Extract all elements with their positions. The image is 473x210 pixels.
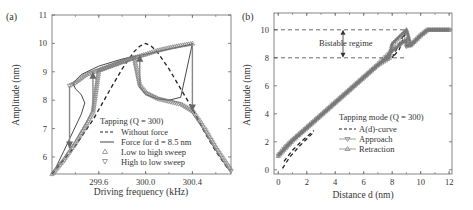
legend-entry-ad-curve: A(d)-curve — [359, 124, 397, 134]
panel-a-frequency-sweep: (a) 67891011 299.6300.0300.4 Driving fre… — [6, 10, 233, 198]
y-tick-label: 7 — [43, 124, 47, 134]
y-tick-label: 8 — [265, 53, 269, 63]
legend-entry-retraction: Retraction — [359, 144, 395, 154]
x-tick-label: 12 — [445, 177, 454, 187]
y-tick-label: 9 — [43, 67, 47, 77]
panel-label-b: (b) — [242, 11, 254, 23]
bistable-regime-annotation: Bistable regime — [319, 38, 373, 48]
legend-entry-low-to-high: Low to high sweep — [121, 147, 186, 157]
x-tick-label: 300.4 — [183, 177, 203, 187]
y-tick-label: 2 — [265, 137, 269, 147]
x-tick-label: 6 — [362, 177, 366, 187]
legend-entry-force: Force for d = 8.5 nm — [121, 137, 192, 147]
y-tick-label: 10 — [261, 25, 270, 35]
y-tick-label: 11 — [39, 10, 47, 20]
legend-entry-high-to-low: High to low sweep — [121, 157, 185, 167]
triangle-up-icon — [345, 147, 350, 151]
legend-b: Tapping mode (Q = 300) A(d)-curve Approa… — [339, 112, 424, 154]
x-axis-label-a: Driving frequency (kHz) — [94, 187, 188, 198]
x-axis-label-b: Distance d (nm) — [332, 190, 393, 201]
y-tick-label: 10 — [39, 38, 48, 48]
panel-label-a: (a) — [6, 11, 17, 23]
y-tick-label: 4 — [265, 109, 270, 119]
panel-b-distance-curve: (b) 0246810 024681012 Distance d (nm) Am… — [242, 11, 453, 201]
arrow-up-icon — [341, 30, 346, 35]
figure: (a) 67891011 299.6300.0300.4 Driving fre… — [0, 0, 473, 210]
triangle-down-icon — [345, 138, 350, 142]
y-tick-label: 6 — [43, 152, 47, 162]
x-tick-label: 2 — [305, 177, 309, 187]
x-tick-label: 300.0 — [136, 177, 155, 187]
x-tick-label: 299.6 — [89, 177, 108, 187]
x-tick-label: 0 — [276, 177, 280, 187]
legend-title-a: Tapping (Q = 300) — [100, 116, 164, 126]
legend-title-b: Tapping mode (Q = 300) — [339, 112, 424, 122]
legend-entry-approach: Approach — [359, 134, 393, 144]
triangle-down-icon — [103, 160, 108, 165]
x-tick-label: 8 — [390, 177, 394, 187]
y-tick-label: 0 — [265, 165, 269, 175]
y-tick-label: 8 — [43, 95, 47, 105]
arrow-down-icon — [341, 53, 346, 58]
y-axis-label-b: Amplitude (nm) — [242, 64, 253, 125]
legend-entry-without-force: Without force — [121, 127, 168, 137]
triangle-up-icon — [103, 149, 108, 154]
x-tick-label: 10 — [416, 177, 425, 187]
legend-a: Tapping (Q = 300) Without force Force fo… — [100, 116, 192, 167]
y-axis-label-a: Amplitude (nm) — [11, 64, 22, 125]
x-tick-label: 4 — [333, 177, 338, 187]
y-tick-label: 6 — [265, 81, 269, 91]
